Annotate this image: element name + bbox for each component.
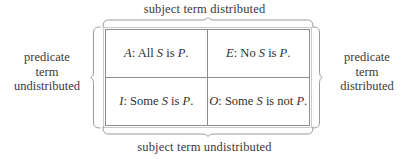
proposition-o-text: O: Some S is not P.	[209, 94, 307, 109]
proposition-e-text: E: No S is P.	[226, 46, 290, 61]
right-caption-line-3: distributed	[327, 79, 407, 94]
left-caption: predicate term undistributed	[6, 50, 88, 94]
left-caption-line-2: term	[6, 65, 88, 80]
table-cell-o: O: Some S is not P.	[208, 78, 310, 126]
table-cell-i: I: Some S is P.	[106, 78, 208, 126]
proposition-e-terminator: .	[287, 46, 290, 60]
proposition-table: A: All S is P. E: No S is P. I: Some S i…	[106, 30, 309, 125]
proposition-e-quantifier: No	[240, 46, 258, 60]
proposition-o-copula: is not	[263, 94, 297, 108]
proposition-o-quantifier: Some	[225, 94, 257, 108]
proposition-e-copula: is	[265, 46, 280, 60]
proposition-a-terminator: .	[185, 46, 188, 60]
proposition-a-copula: is	[163, 46, 178, 60]
left-caption-line-3: undistributed	[6, 79, 88, 94]
brace-left-icon	[90, 26, 101, 129]
left-caption-line-1: predicate	[6, 50, 88, 65]
table-frame: A: All S is P. E: No S is P. I: Some S i…	[105, 29, 310, 126]
proposition-a-quantifier: All	[138, 46, 157, 60]
proposition-i-copula: is	[168, 94, 183, 108]
proposition-i-quantifier: Some	[130, 94, 162, 108]
proposition-a-text: A: All S is P.	[124, 46, 188, 61]
distribution-of-terms-figure: subject term distributed A: All S is P. …	[0, 0, 409, 159]
proposition-a-letter: A	[124, 46, 132, 60]
proposition-e-letter: E	[226, 46, 234, 60]
proposition-i-predicate: P	[182, 94, 190, 108]
top-caption: subject term distributed	[0, 2, 409, 17]
proposition-o-separator: :	[218, 94, 225, 108]
table-cell-e: E: No S is P.	[208, 30, 310, 78]
brace-down-icon	[102, 126, 314, 137]
right-caption-line-1: predicate	[327, 50, 407, 65]
proposition-i-text: I: Some S is P.	[119, 94, 193, 109]
proposition-o-terminator: .	[304, 94, 307, 108]
bottom-caption: subject term undistributed	[0, 140, 409, 155]
brace-up-icon	[102, 17, 314, 28]
proposition-o-letter: O	[209, 94, 218, 108]
proposition-o-predicate: P	[296, 94, 304, 108]
right-caption-line-2: term	[327, 65, 407, 80]
proposition-i-terminator: .	[190, 94, 193, 108]
table-cell-a: A: All S is P.	[106, 30, 208, 78]
right-caption: predicate term distributed	[327, 50, 407, 94]
brace-right-icon	[312, 26, 323, 129]
